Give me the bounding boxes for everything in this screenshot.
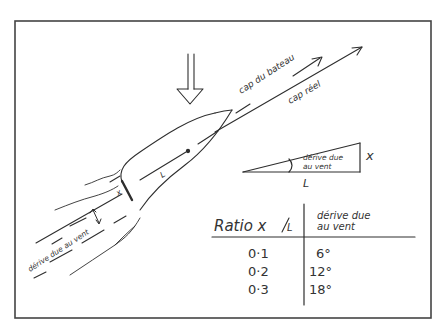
triangle-angle-label-line1: dérive due: [303, 153, 343, 162]
table-header-ratio-denominator: L: [287, 222, 293, 233]
table-header-drift-line2: au vent: [317, 221, 356, 232]
drift-value: 6°: [316, 246, 331, 261]
offset-marker: [90, 209, 101, 224]
actual-course-label: cap réel: [286, 79, 323, 106]
triangle-angle-label-line2: au vent: [303, 162, 333, 171]
diagram-canvas: x L cap du bateau cap réel dérive due au…: [0, 0, 446, 334]
table-row: 0·2 12°: [248, 264, 332, 279]
table-header-drift-line1: dérive due: [317, 210, 370, 221]
table-row: 0·1 6°: [248, 246, 331, 261]
leeway-diagram: x L cap du bateau cap réel dérive due au…: [0, 0, 446, 334]
ratio-value: 0·1: [248, 246, 269, 261]
ratio-value: 0·2: [248, 264, 269, 279]
drift-value: 12°: [309, 264, 332, 279]
offset-label-small: x: [114, 187, 124, 198]
drift-value: 18°: [309, 282, 332, 297]
triangle-opposite-label: x: [365, 148, 374, 163]
length-label-small: L: [159, 170, 167, 180]
boat-hull: [121, 110, 232, 210]
hollow-down-arrow-icon: [177, 54, 203, 104]
ratio-value: 0·3: [248, 282, 269, 297]
frame-border: [15, 21, 431, 318]
triangle-adjacent-label: L: [303, 177, 309, 190]
heading-line-boat: [36, 57, 322, 243]
table-header-ratio: Ratio x: [214, 217, 267, 235]
table-row: 0·3 18°: [248, 282, 332, 297]
boat-heading-label: cap du bateau: [237, 52, 297, 96]
ratio-table: Ratio x L dérive due au vent 0·1 6° 0·2 …: [212, 204, 415, 305]
